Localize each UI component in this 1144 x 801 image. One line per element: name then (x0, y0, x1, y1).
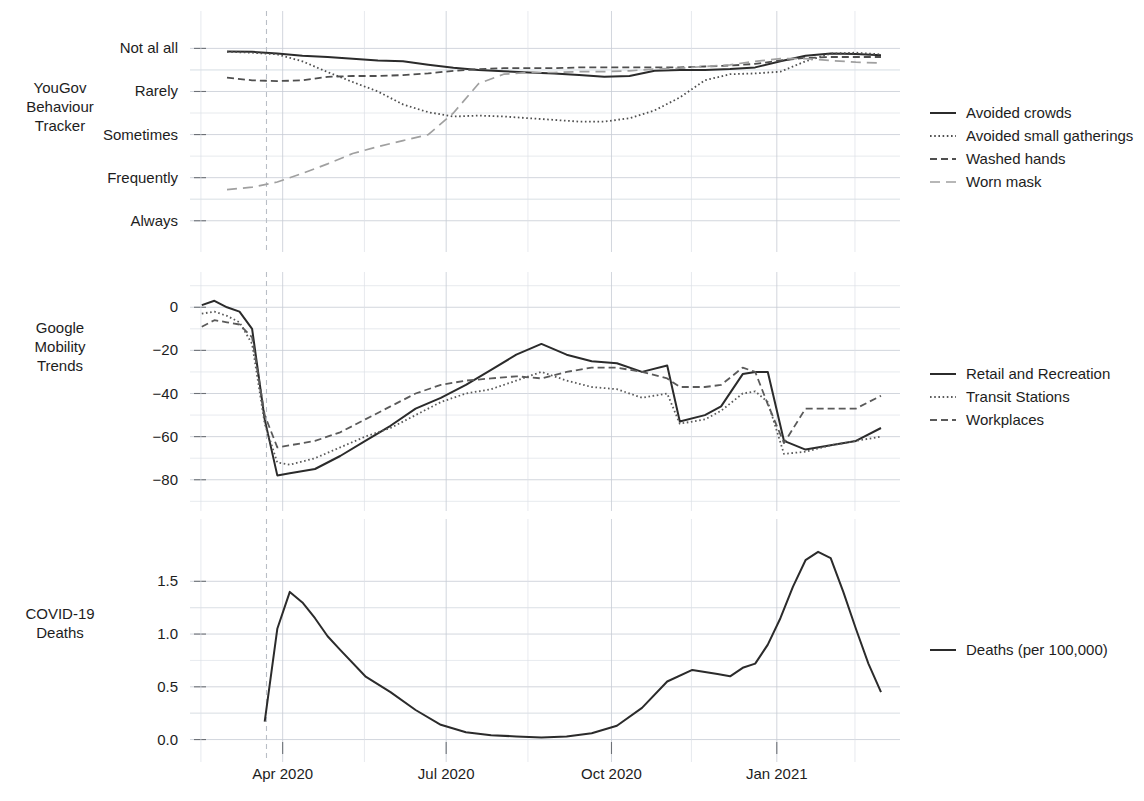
y-tick-label-panel_2: −80 (153, 471, 178, 488)
panel-label-yougov: Tracker (35, 117, 85, 134)
legend-label-avoided-small-gatherings: Avoided small gatherings (966, 127, 1133, 144)
y-tick-label-panel_1: Frequently (107, 169, 178, 186)
y-tick-label-panel_3: 1.5 (157, 572, 178, 589)
legend-label-avoided-crowds: Avoided crowds (966, 104, 1072, 121)
x-tick-label-0: Apr 2020 (252, 765, 313, 782)
y-tick-label-panel_3: 0.5 (157, 678, 178, 695)
y-tick-label-panel_1: Always (130, 212, 178, 229)
y-tick-label-panel_1: Not al all (120, 39, 178, 56)
y-tick-label-panel_1: Sometimes (103, 126, 178, 143)
y-tick-label-panel_2: −20 (153, 341, 178, 358)
legend-label-workplaces: Workplaces (966, 411, 1044, 428)
x-tick-label-3: Jan 2021 (746, 765, 808, 782)
y-tick-label-panel_2: −40 (153, 385, 178, 402)
panel-label-yougov: YouGov (34, 79, 87, 96)
x-tick-label-1: Jul 2020 (418, 765, 475, 782)
legend-label-retail-and-recreation: Retail and Recreation (966, 365, 1110, 382)
y-tick-label-panel_3: 0.0 (157, 731, 178, 748)
legend-label-deaths-per-100-000-: Deaths (per 100,000) (966, 641, 1108, 658)
panel-label-mobility: Mobility (35, 338, 86, 355)
y-tick-label-panel_1: Rarely (135, 82, 179, 99)
legend-label-transit-stations: Transit Stations (966, 388, 1070, 405)
panel-label-deaths: COVID-19 (25, 605, 94, 622)
legend-label-worn-mask: Worn mask (966, 173, 1042, 190)
y-tick-label-panel_3: 1.0 (157, 625, 178, 642)
x-tick-label-2: Oct 2020 (581, 765, 642, 782)
panel-label-mobility: Google (36, 319, 84, 336)
legend-label-washed-hands: Washed hands (966, 150, 1066, 167)
covid-behaviour-mobility-deaths-figure: AlwaysFrequentlySometimesRarelyNot al al… (0, 0, 1144, 801)
y-tick-label-panel_2: −60 (153, 428, 178, 445)
panel-label-deaths: Deaths (36, 624, 84, 641)
panel-label-yougov: Behaviour (26, 98, 94, 115)
y-tick-label-panel_2: 0 (170, 298, 178, 315)
panel-label-mobility: Trends (37, 357, 83, 374)
